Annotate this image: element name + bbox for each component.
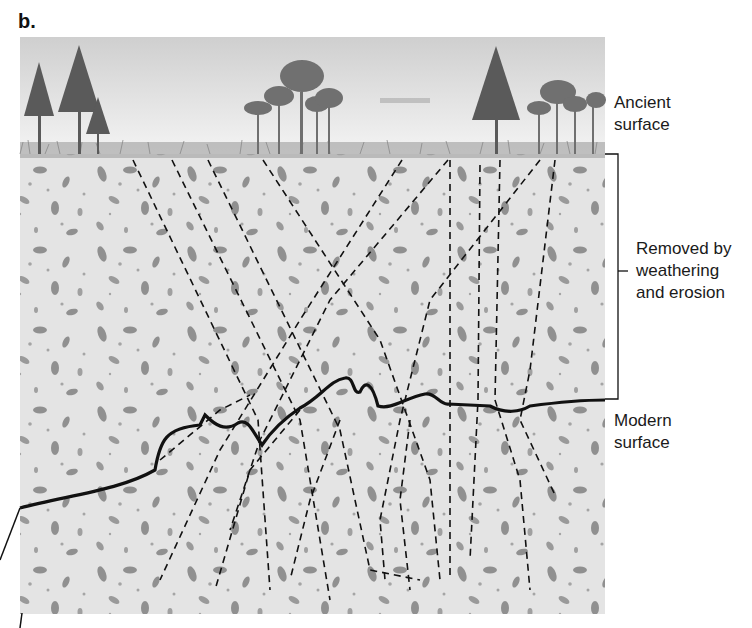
ancient-surface-label: Ancient surface — [614, 92, 671, 136]
modern-surface-label: Modern surface — [614, 410, 672, 454]
regolith-block — [20, 154, 605, 614]
removed-bracket — [605, 154, 628, 399]
removed-by-weathering-label: Removed by weathering and erosion — [636, 238, 731, 304]
grass-band — [20, 142, 605, 158]
sky — [20, 37, 605, 154]
